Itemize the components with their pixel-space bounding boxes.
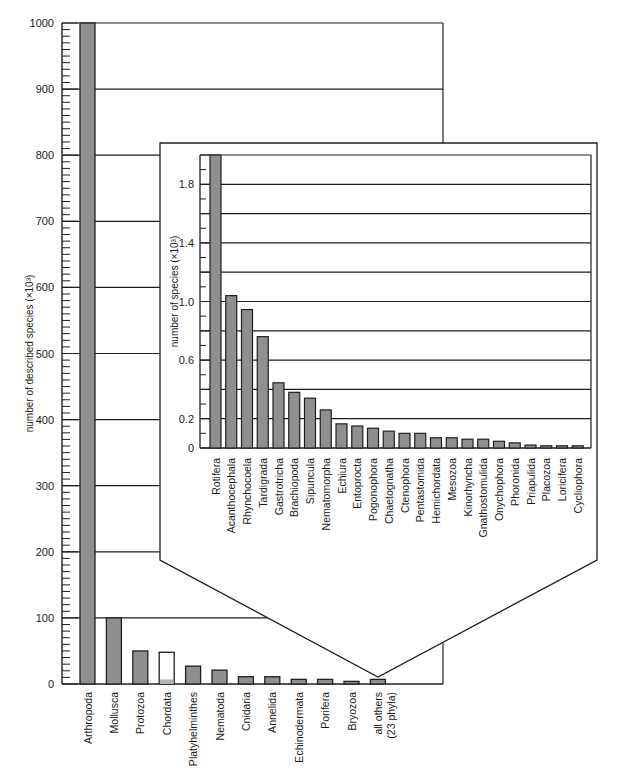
inset-category-label: Onychophora [493,458,505,521]
inset-y-tick-label: 0.2 [179,413,194,425]
main-y-tick-label: 0 [48,678,54,690]
inset-category-label: Entoprocta [351,458,363,509]
main-category-label: Protozoa [134,692,146,734]
inset-category-label: Hemichordata [430,458,442,524]
chordata-bar-outline [159,652,174,684]
inset-category-label: Priapulida [525,458,537,505]
inset-y-tick-label: 1.4 [179,237,194,249]
inset-category-label: Rhynchocoela [241,458,253,525]
inset-category-label: Loricifera [556,458,568,501]
main-y-axis-title: number of described species (×10³) [24,275,35,433]
inset-category-label: Phoronida [509,458,521,506]
main-bar-cnidaria: Cnidaria [238,677,253,731]
inset-category-label: Pentastomida [414,458,426,522]
main-bar-rect [133,651,148,684]
inset-bar-rotifera: Rotifera [210,155,222,495]
main-category-label: Mollusca [108,692,120,734]
inset-category-label: Sipuncula [304,458,316,504]
main-y-tick-label: 300 [36,480,54,492]
main-bar-platyhelminthes: Platyhelminthes [186,666,201,766]
inset-bar-rect [541,446,552,448]
main-category-label: Cnidaria [240,692,252,731]
main-category-label: Porifera [319,692,331,729]
inset-bar-pogonophora: Pogonophora [367,428,379,521]
inset-bar-ctenophora: Ctenophora [399,433,411,513]
inset-y-tick-label: 0 [188,442,194,454]
inset-category-label: Gastrotricha [273,458,285,515]
inset-bar-rect [257,337,268,448]
main-category-label: Nematoda [214,692,226,741]
inset-bar-nematomorpha: Nematomorpha [320,410,332,530]
main-category-label: Platyhelminthes [187,692,199,766]
inset-bar-rect [399,433,410,448]
inset-category-label: Nematomorpha [320,458,332,531]
inset-category-label: Gnathostomulida [477,458,489,538]
main-bar-nematoda: Nematoda [212,670,227,740]
main-bar-annelida: Annelida [265,677,280,733]
main-category-label: Echinodermata [293,692,305,763]
inset-bar-rect [320,410,331,448]
main-category-label: (23 phyla) [385,692,397,739]
main-bar-porifera: Porifera [318,679,333,728]
main-bar-rect [186,666,201,684]
main-bar-rect [238,677,253,684]
main-category-label: Arthropoda [82,692,94,744]
main-bar-rect [318,679,333,684]
inset-bar-rect [273,383,284,448]
inset-bar-tardigrada: Tardigrada [257,337,269,508]
inset-category-label: Tardigrada [257,458,269,508]
main-bar-rect [265,677,280,684]
main-bar-protozoa: Protozoa [133,651,148,734]
inset-bar-rect [525,445,536,448]
main-bar-rect [106,618,121,684]
inset-category-label: Kinorhyncha [462,458,474,517]
main-y-tick-label: 500 [36,348,54,360]
main-bar-bryozoa: Bryozoa [344,681,359,730]
inset-bar-rect [446,438,457,448]
inset-bar-mesozoa: Mesozoa [446,438,458,501]
inset-bar-rect [415,433,426,448]
inset-y-tick-label: 0.6 [179,354,194,366]
inset-bar-rect [462,439,473,448]
inset-bar-rect [494,441,505,448]
main-bar-rect [344,681,359,684]
inset-bar-rect [383,431,394,448]
inset-bar-pentastomida: Pentastomida [414,433,426,522]
inset-bar-rect [305,398,316,448]
main-y-tick-label: 900 [36,83,54,95]
main-y-tick-label: 100 [36,612,54,624]
inset-category-label: Acanthocephala [225,458,237,533]
inset-category-label: Pogonophora [367,458,379,521]
main-category-label: all others [372,692,384,735]
inset-bar-rect [242,310,253,448]
main-y-tick-label: 1000 [30,17,54,29]
main-y-tick-label: 200 [36,546,54,558]
inset-y-axis-title: number of species (×10³) [169,236,180,347]
inset-bar-rect [210,155,221,448]
inset-bar-rect [352,426,363,448]
main-y-tick-label: 800 [36,149,54,161]
chart-svg: 01002003004005006007008009001000number o… [0,0,625,782]
main-y-tick-label: 400 [36,414,54,426]
inset-category-label: Chaetognatha [383,458,395,524]
main-y-tick-label: 600 [36,281,54,293]
main-bar-rect [370,679,385,684]
figure: number of described species (×10³) numbe… [0,0,625,782]
inset-y-tick-label: 1.0 [179,296,194,308]
inset-bar-rect [289,392,300,448]
main-bar-chordata: Chordata [159,652,174,735]
main-category-label: Annelida [266,692,278,733]
inset-bar-rect [478,439,489,448]
inset-category-label: Rotifera [210,458,222,495]
inset-category-label: Echiura [336,458,348,494]
inset-bar-rect [509,443,520,448]
chordata-bar-shaded [160,679,174,684]
main-y-tick-label: 700 [36,215,54,227]
inset-category-label: Ctenophora [399,458,411,513]
inset-bar-rect [368,428,379,448]
inset-bar-rect [336,424,347,448]
inset-bar-rect [572,446,583,448]
inset-category-label: Brachiopoda [288,458,300,517]
inset-category-label: Mesozoa [446,458,458,501]
main-category-label: Bryozoa [346,692,358,731]
